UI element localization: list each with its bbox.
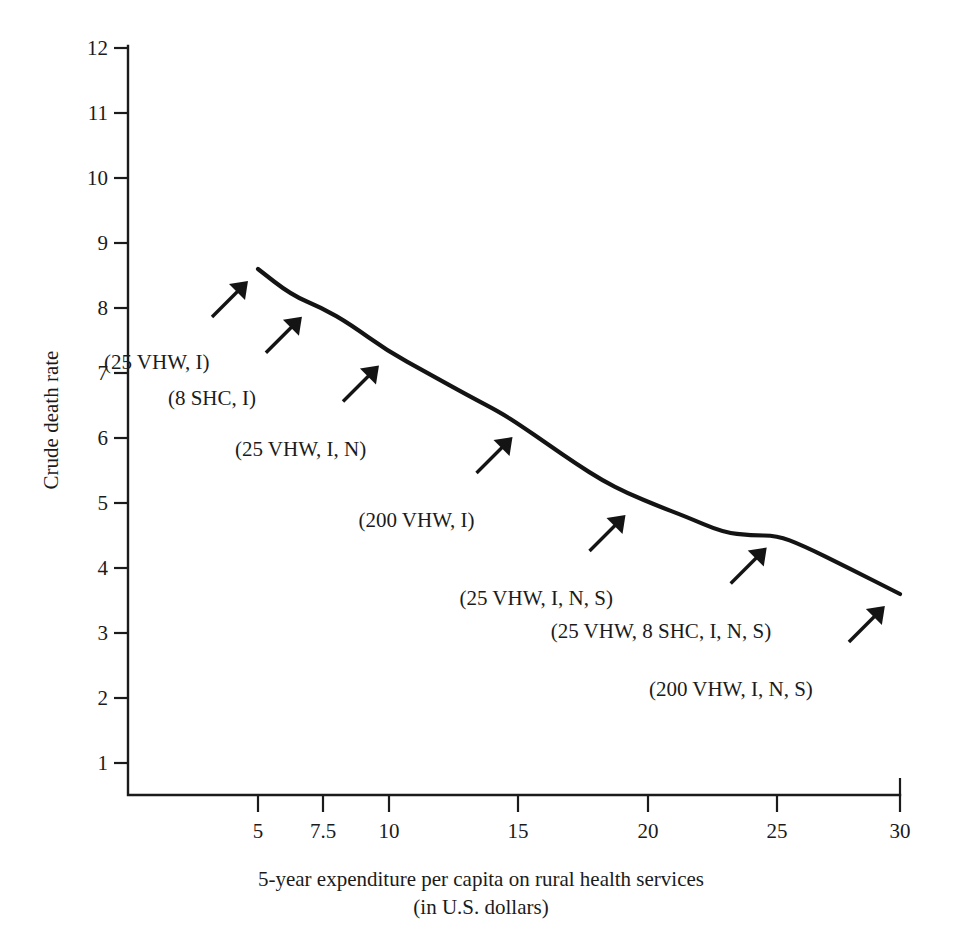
annotation-label: (200 VHW, I, N, S) [649,677,813,701]
annotation-label: (25 VHW, I, N, S) [460,586,613,610]
y-tick-label: 8 [98,296,109,320]
y-tick-label: 4 [98,556,109,580]
x-tick-label: 7.5 [310,819,336,843]
x-tick-label: 25 [767,819,788,843]
crude-death-rate-line-chart: 12 11 10 9 8 7 6 5 4 3 2 1 5 7.5 10 [0,0,962,926]
y-tick-label: 5 [98,491,109,515]
annotation-label: (25 VHW, I) [104,350,210,374]
annotation-label: (25 VHW, I, N) [235,437,366,461]
y-axis-title: Crude death rate [39,351,63,490]
x-tick-label: 20 [638,819,659,843]
x-tick-label: 5 [253,819,264,843]
y-tick-label: 3 [98,621,109,645]
y-tick-label: 12 [87,36,108,60]
y-tick-label: 11 [88,101,108,125]
chart-background [0,0,962,926]
y-tick-label: 9 [98,231,109,255]
y-tick-label: 10 [87,166,108,190]
y-tick-label: 6 [98,426,109,450]
annotation-label: (25 VHW, 8 SHC, I, N, S) [551,619,772,643]
x-axis-title-line2: (in U.S. dollars) [413,895,548,919]
y-tick-label: 2 [98,686,109,710]
annotation-label: (8 SHC, I) [168,386,256,410]
x-tick-label: 10 [379,819,400,843]
x-axis-title-line1: 5-year expenditure per capita on rural h… [258,867,704,891]
annotation-label: (200 VHW, I) [359,508,475,532]
y-tick-label: 1 [98,751,109,775]
x-tick-label: 30 [890,819,911,843]
chart-figure: 12 11 10 9 8 7 6 5 4 3 2 1 5 7.5 10 [0,0,962,926]
x-tick-label: 15 [508,819,529,843]
